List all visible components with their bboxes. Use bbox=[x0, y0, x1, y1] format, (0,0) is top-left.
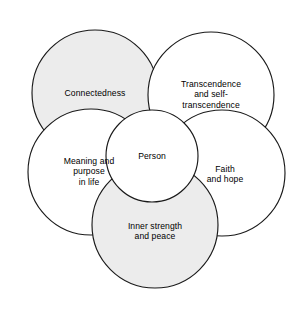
spirituality-venn-diagram: Connectedness Transcendence and self- tr… bbox=[0, 0, 304, 311]
venn-circles-canvas bbox=[0, 0, 304, 311]
circle-person bbox=[106, 110, 198, 202]
